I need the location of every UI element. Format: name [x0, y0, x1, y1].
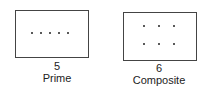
dot [31, 32, 33, 34]
prime-number: 5 [37, 61, 77, 72]
dot [173, 25, 175, 27]
prime-label: Prime [27, 73, 87, 84]
dot [40, 32, 42, 34]
composite-dot-box [123, 12, 197, 61]
dot [143, 25, 145, 27]
dot [158, 25, 160, 27]
composite-label: Composite [124, 75, 194, 86]
dot [67, 32, 69, 34]
dot [173, 43, 175, 45]
dot [58, 32, 60, 34]
dot [49, 32, 51, 34]
dot [143, 43, 145, 45]
composite-number: 6 [139, 63, 179, 74]
prime-dot-box [15, 10, 89, 58]
dot [158, 43, 160, 45]
